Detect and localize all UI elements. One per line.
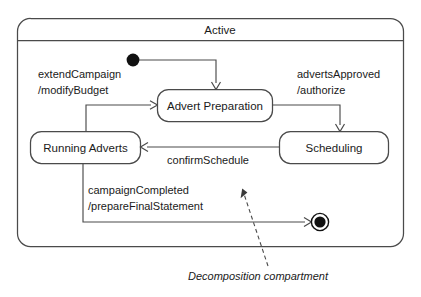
state-running-adverts[interactable]: Running Adverts: [31, 132, 141, 164]
state-scheduling[interactable]: Scheduling: [280, 132, 389, 164]
transition-extend-campaign-effect: /modifyBudget: [38, 84, 108, 96]
transition-adverts-approved-trigger: advertsApproved: [297, 68, 380, 80]
state-advert-preparation-label: Advert Preparation: [167, 100, 263, 112]
uml-state-machine-diagram: Active extendCampaign /modifyBudget Adve…: [0, 0, 421, 297]
final-state-dot: [314, 216, 325, 227]
state-running-adverts-label: Running Adverts: [43, 142, 128, 154]
transition-extend-campaign-trigger: extendCampaign: [38, 68, 121, 80]
transition-confirm-schedule-label: confirmSchedule: [167, 154, 249, 166]
initial-state-dot: [127, 54, 140, 67]
note-text: Decomposition compartment: [188, 270, 329, 282]
transition-adverts-approved-effect: /authorize: [297, 84, 345, 96]
initial-state[interactable]: [127, 54, 140, 67]
final-state[interactable]: [311, 213, 328, 230]
diagram-canvas: Active extendCampaign /modifyBudget Adve…: [0, 0, 421, 297]
state-scheduling-label: Scheduling: [306, 142, 363, 154]
state-advert-preparation[interactable]: Advert Preparation: [158, 90, 273, 122]
composite-state-title: Active: [204, 24, 235, 36]
transition-campaign-completed-trigger: campaignCompleted: [88, 184, 189, 196]
transition-campaign-completed-effect: /prepareFinalStatement: [88, 200, 203, 212]
